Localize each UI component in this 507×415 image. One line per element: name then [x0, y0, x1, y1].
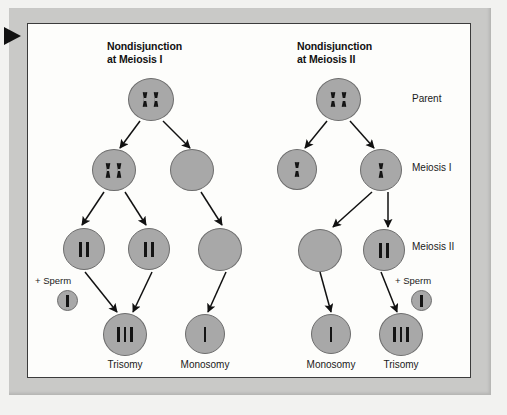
figure-page: Nondisjunction at Meiosis I Nondisjuncti…	[0, 0, 507, 415]
cell-right-sperm[interactable]	[411, 290, 432, 311]
chromosome-x-icon	[142, 92, 149, 107]
cell-right-parent[interactable]	[316, 78, 361, 121]
chromatid-bar-icon	[400, 327, 403, 342]
cell-right-trisomy[interactable]	[379, 313, 423, 356]
cell-left-trisomy[interactable]	[103, 313, 147, 356]
row-label-parent: Parent	[412, 93, 441, 104]
arrow-left-m1a-to-m2a	[82, 192, 104, 225]
chromosome-x-icon	[294, 162, 301, 177]
chromatid-bar-icon	[66, 295, 68, 307]
chromatid-bar-icon	[406, 327, 409, 342]
chromosome-group	[105, 163, 123, 178]
arrow-right-parent-to-m1b	[350, 121, 374, 148]
chromatid-bar-icon	[86, 242, 89, 257]
row-label-meiosis-1: Meiosis I	[412, 162, 451, 173]
arrow-left-m1a-to-m2b	[125, 192, 146, 225]
chromatid-bar-icon	[330, 327, 333, 342]
chromatid-bar-icon	[379, 243, 382, 258]
chromosome-group	[330, 327, 333, 342]
chromatid-bar-icon	[386, 243, 389, 258]
cell-right-meiosis1-a[interactable]	[277, 149, 317, 190]
cell-left-meiosis2-b[interactable]	[128, 228, 170, 270]
chromosome-x-icon	[116, 163, 123, 178]
cell-left-meiosis2-a[interactable]	[63, 228, 105, 270]
chromosome-x-icon	[378, 163, 385, 178]
outcome-label-trisomy-left: Trisomy	[103, 359, 147, 370]
cell-left-meiosis2-c[interactable]	[198, 228, 242, 271]
outcome-label-monosomy-left: Monosomy	[178, 359, 232, 370]
chromatid-bar-icon	[204, 327, 207, 342]
chromatid-bar-icon	[420, 295, 422, 307]
cell-right-meiosis2-a[interactable]	[298, 229, 342, 272]
chromosome-group	[79, 242, 88, 257]
chromosome-group	[117, 327, 133, 342]
chromatid-bar-icon	[144, 242, 147, 257]
chromosome-group	[294, 162, 301, 177]
chromatid-bar-icon	[79, 242, 82, 257]
chromosome-group	[378, 163, 385, 178]
diagram-canvas: Nondisjunction at Meiosis I Nondisjuncti…	[0, 0, 507, 415]
chromosome-group	[142, 92, 160, 107]
cell-left-parent[interactable]	[128, 78, 174, 121]
arrow-left-parent-to-m1a	[120, 121, 140, 148]
chromosome-group	[420, 295, 422, 307]
cell-right-meiosis2-b[interactable]	[363, 229, 405, 271]
arrow-left-m1b-to-m2c	[201, 192, 222, 225]
chromosome-group	[204, 327, 207, 342]
chromatid-bar-icon	[130, 327, 133, 342]
chromatid-bar-icon	[124, 327, 127, 342]
cell-right-meiosis1-b[interactable]	[360, 149, 402, 191]
arrow-right-parent-to-m1a	[305, 121, 327, 148]
arrow-left-m2b-to-trisomy	[133, 272, 152, 312]
row-label-meiosis-2: Meiosis II	[412, 241, 454, 252]
chromosome-group	[144, 242, 153, 257]
arrow-left-m2a-to-trisomy	[85, 272, 117, 312]
chromosome-x-icon	[330, 92, 337, 107]
chromosome-x-icon	[341, 92, 348, 107]
arrow-right-m2a-to-monosomy	[320, 272, 331, 312]
chromosome-x-icon	[153, 92, 160, 107]
panel-title-meiosis-ii: Nondisjunction at Meiosis II	[297, 40, 372, 65]
cell-right-monosomy[interactable]	[311, 314, 351, 354]
arrow-right-m1b-to-m2a	[333, 192, 372, 227]
outcome-label-trisomy-right: Trisomy	[379, 359, 423, 370]
chromatid-bar-icon	[117, 327, 120, 342]
cell-left-monosomy[interactable]	[185, 314, 225, 354]
cell-left-meiosis1-b[interactable]	[170, 149, 214, 191]
sperm-label-right: + Sperm	[395, 275, 431, 286]
panel-title-meiosis-i: Nondisjunction at Meiosis I	[107, 40, 182, 65]
outcome-label-monosomy-right: Monosomy	[304, 359, 358, 370]
arrow-layer	[0, 0, 507, 415]
cell-left-sperm[interactable]	[57, 290, 78, 311]
chromatid-bar-icon	[393, 327, 396, 342]
chromosome-group	[379, 243, 388, 258]
chromosome-group	[393, 327, 409, 342]
sperm-label-left: + Sperm	[35, 275, 71, 286]
arrow-left-parent-to-m1b	[163, 121, 190, 148]
chromosome-group	[330, 92, 348, 107]
chromosome-group	[66, 295, 68, 307]
chromatid-bar-icon	[151, 242, 154, 257]
arrow-left-m2c-to-monosomy	[208, 272, 226, 312]
chromosome-x-icon	[105, 163, 112, 178]
cell-left-meiosis1-a[interactable]	[92, 149, 136, 191]
